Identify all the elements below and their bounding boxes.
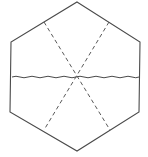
dashed-diagonal-line-2 xyxy=(44,22,109,130)
hexagon-figure xyxy=(0,0,148,157)
hexagon-diagram xyxy=(0,0,148,157)
